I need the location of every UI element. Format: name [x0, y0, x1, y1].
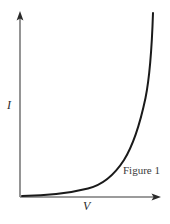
y-axis-label: I [7, 99, 11, 111]
x-axis-label: V [83, 200, 90, 212]
figure-canvas [0, 0, 170, 224]
figure-iv-characteristic: I V Figure 1 [0, 0, 170, 224]
y-axis [17, 11, 24, 197]
figure-caption: Figure 1 [123, 165, 160, 176]
